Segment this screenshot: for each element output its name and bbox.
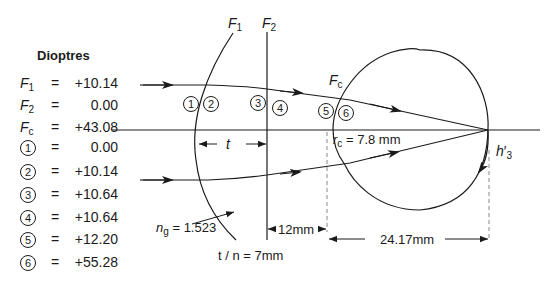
subscript: 2	[29, 104, 35, 115]
marker-5: 5	[318, 103, 334, 119]
circled-number-icon: 5	[20, 232, 36, 248]
symbol: F	[20, 97, 29, 113]
axial-length-label: 24.17mm	[380, 232, 434, 247]
upper-ray-arrow-3	[370, 104, 400, 111]
circled-number-icon: 4	[272, 100, 288, 116]
value: +12.20	[58, 231, 118, 247]
subscript: c	[337, 138, 342, 149]
circled-number-icon: 4	[20, 210, 36, 226]
value: +10.64	[58, 186, 118, 202]
label-f2: F2	[262, 15, 276, 33]
value: +10.14	[58, 163, 118, 179]
circled-number-icon: 3	[250, 95, 266, 111]
circled-number-icon: 6	[338, 105, 354, 121]
value: +43.08	[58, 119, 118, 135]
symbol: F	[20, 75, 29, 91]
subscript: 1	[237, 22, 243, 33]
marker-3: 3	[250, 95, 266, 111]
circled-number-icon: 1	[20, 140, 36, 156]
subscript: 3	[506, 150, 512, 161]
circled-number-icon: 6	[20, 255, 36, 271]
marker-4: 4	[272, 100, 288, 116]
symbol: F	[329, 72, 338, 88]
value: = 1.523	[172, 220, 216, 235]
lower-ray-arrow-3	[370, 152, 398, 158]
subscript: g	[163, 226, 169, 237]
legend-title: Dioptres	[37, 48, 90, 63]
value: = 7.8 mm	[346, 132, 401, 147]
subscript: c	[338, 79, 343, 90]
subscript: c	[29, 126, 34, 137]
symbol: F	[228, 15, 237, 31]
value: +10.14	[58, 75, 118, 91]
circled-number-icon: 3	[20, 187, 36, 203]
eye-globe-outline	[333, 49, 488, 210]
symbol: F	[20, 119, 29, 135]
label-f1: F1	[228, 15, 242, 33]
circled-number-icon: 1	[183, 96, 199, 112]
circled-number-icon: 2	[203, 96, 219, 112]
marker-6: 6	[338, 105, 354, 121]
image-height-arrow	[479, 131, 488, 172]
reduced-thickness-label: t / n = 7mm	[218, 248, 283, 263]
value: +55.28	[58, 254, 118, 270]
circled-number-icon: 2	[20, 164, 36, 180]
circled-number-icon: 5	[318, 103, 334, 119]
subscript: 2	[271, 22, 277, 33]
marker-1: 1	[183, 96, 199, 112]
value: 0.00	[58, 97, 118, 113]
glass-index-label: ng = 1.523	[156, 220, 216, 237]
vertex-distance-label: 12mm	[278, 222, 314, 237]
marker-2: 2	[203, 96, 219, 112]
subscript: 1	[29, 82, 35, 93]
label-fc: Fc	[329, 72, 343, 90]
value: 0.00	[58, 139, 118, 155]
symbol: F	[262, 15, 271, 31]
value: +10.64	[58, 209, 118, 225]
image-height-label: h′3	[496, 143, 512, 161]
corneal-radius-label: rc = 7.8 mm	[333, 132, 401, 149]
thickness-label: t	[226, 136, 230, 152]
symbol: h	[496, 143, 504, 159]
